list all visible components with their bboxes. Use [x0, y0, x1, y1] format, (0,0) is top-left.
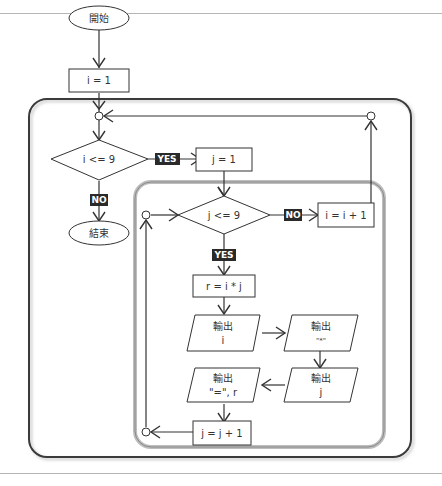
- junction-inner-top: [142, 211, 150, 219]
- yes-j-tag: YES: [212, 249, 236, 261]
- calc-r-process[interactable]: r = i * j: [193, 275, 255, 297]
- svg-text:"=", r: "=", r: [209, 387, 238, 398]
- end-label: 結束: [89, 227, 109, 239]
- yes-i-tag: YES: [155, 153, 180, 165]
- svg-text:NO: NO: [91, 195, 107, 205]
- inc-j-process[interactable]: j = j + 1: [193, 421, 251, 445]
- svg-text:輸出: 輸出: [213, 320, 233, 332]
- no-i-tag: NO: [90, 194, 108, 206]
- svg-text:NO: NO: [285, 210, 301, 220]
- cond-j-label: j <= 9: [207, 210, 240, 221]
- no-j-tag: NO: [284, 209, 302, 221]
- output-star[interactable]: 輸出 "*": [284, 315, 358, 351]
- output-j[interactable]: 輸出 j: [284, 368, 358, 402]
- init-j-label: j = 1: [211, 154, 236, 165]
- flowchart-canvas: 開始 i = 1 i <= 9 YES NO 結束 j = 1 j <= 9 N…: [0, 0, 442, 486]
- calc-r-label: r = i * j: [206, 281, 242, 292]
- svg-text:YES: YES: [213, 250, 233, 260]
- junction-inner-bottom: [142, 428, 150, 436]
- output-equals-r[interactable]: 輸出 "=", r: [187, 368, 260, 402]
- svg-text:"*": "*": [316, 337, 326, 345]
- init-i-label: i = 1: [87, 75, 111, 86]
- start-terminal[interactable]: 開始: [69, 6, 129, 30]
- init-i-process[interactable]: i = 1: [69, 69, 129, 92]
- cond-i-label: i <= 9: [83, 154, 115, 165]
- start-label: 開始: [89, 12, 109, 24]
- svg-text:YES: YES: [156, 154, 176, 164]
- inc-i-process[interactable]: i = i + 1: [318, 203, 374, 227]
- cond-i-decision[interactable]: i <= 9: [51, 140, 148, 180]
- end-terminal[interactable]: 結束: [69, 221, 129, 245]
- output-i[interactable]: 輸出 i: [187, 315, 260, 351]
- svg-text:輸出: 輸出: [311, 320, 331, 332]
- svg-text:j: j: [319, 387, 323, 398]
- cond-j-decision[interactable]: j <= 9: [178, 196, 270, 234]
- junction-outer-right: [367, 112, 375, 120]
- junction-outer-top: [95, 112, 103, 120]
- inc-i-label: i = i + 1: [325, 210, 366, 221]
- init-j-process[interactable]: j = 1: [196, 148, 252, 171]
- inc-j-label: j = j + 1: [200, 428, 242, 439]
- svg-text:輸出: 輸出: [311, 372, 331, 384]
- svg-text:輸出: 輸出: [213, 372, 233, 384]
- svg-text:i: i: [222, 335, 225, 346]
